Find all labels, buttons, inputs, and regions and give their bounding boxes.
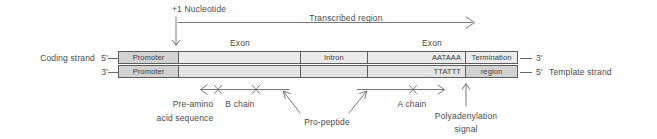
- pre-amino-b-chain-measure-line: [201, 85, 290, 94]
- coding-strand-3prime-label: 3': [536, 53, 543, 63]
- x-mark-pre-amino: [215, 86, 222, 94]
- polyadenylation-label-line1: Polyadenylation: [435, 111, 497, 121]
- template-segment-intron: [301, 66, 368, 77]
- coding-segment-promoter-label: Promoter: [133, 54, 165, 62]
- coding-strand-left-tick: [108, 58, 118, 59]
- template-strand-3prime-label: 3': [101, 67, 108, 77]
- template-strand-name-label: Template strand: [549, 67, 612, 77]
- a-chain-label: A chain: [398, 99, 427, 109]
- start-site-arrow: [172, 17, 180, 46]
- coding-strand-name-label: Coding strand: [40, 53, 95, 63]
- pro-peptide-leader-left: [283, 91, 300, 113]
- x-mark-b-chain: [253, 86, 260, 94]
- coding-strand-right-tick: [520, 58, 532, 59]
- template-segment-ttattt-label: TTATTT: [434, 68, 461, 76]
- coding-segment-exon2: AATAAA: [368, 52, 466, 63]
- coding-segment-aataaa-label: AATAAA: [432, 54, 461, 62]
- transcribed-region-label: Transcribed region: [309, 13, 382, 23]
- x-mark-a-chain: [410, 86, 417, 94]
- coding-segment-termination: Termination: [466, 52, 517, 63]
- coding-strand-5prime-label: 5': [101, 53, 108, 63]
- template-segment-exon1: [179, 66, 301, 77]
- start-site-label: +1 Nucleotide: [172, 4, 226, 14]
- exon1-top-label: Exon: [230, 38, 250, 48]
- coding-strand-bar: Promoter Intron AATAAA Termination: [118, 51, 518, 64]
- coding-segment-promoter: Promoter: [119, 52, 179, 63]
- b-chain-label: B chain: [225, 99, 254, 109]
- template-strand-bar: Promoter TTATTT region: [118, 65, 518, 78]
- polyadenylation-label-line2: signal: [454, 124, 477, 134]
- pre-amino-label-line1: Pre-amino: [173, 99, 214, 109]
- template-strand-right-tick: [520, 72, 532, 73]
- coding-segment-intron: Intron: [301, 52, 368, 63]
- template-segment-termination: region: [466, 66, 517, 77]
- a-chain-measure-line: [357, 85, 445, 94]
- pre-amino-label-line2: acid sequence: [157, 113, 214, 123]
- template-segment-promoter: Promoter: [119, 66, 179, 77]
- gene-structure-diagram: +1 Nucleotide Transcribed region Exon Ex…: [0, 0, 657, 139]
- template-segment-exon2: TTATTT: [368, 66, 466, 77]
- template-strand-left-tick: [108, 72, 118, 73]
- template-segment-region-label: region: [481, 68, 502, 76]
- pro-peptide-label: Pro-peptide: [304, 117, 350, 127]
- polyadenylation-signal-arrow: [462, 84, 470, 106]
- coding-segment-intron-label: Intron: [324, 54, 344, 62]
- coding-segment-termination-label: Termination: [472, 54, 512, 62]
- exon2-top-label: Exon: [422, 38, 442, 48]
- coding-segment-exon1: [179, 52, 301, 63]
- pro-peptide-leader-right: [349, 91, 367, 113]
- template-segment-promoter-label: Promoter: [133, 68, 165, 76]
- template-strand-5prime-label: 5': [536, 67, 543, 77]
